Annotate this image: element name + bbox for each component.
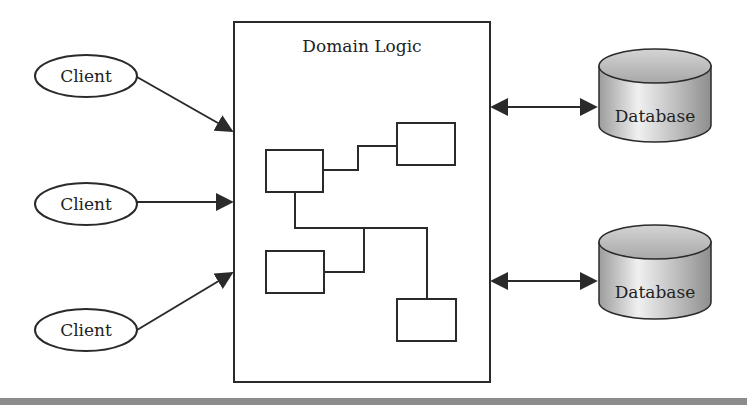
architecture-diagram: Domain Logic Client Client Client <box>0 0 747 409</box>
arrow-icon <box>137 273 232 330</box>
component-box <box>397 123 455 165</box>
database-cylinder: Database <box>599 49 711 142</box>
client-label: Client <box>60 320 112 340</box>
database-label: Database <box>615 282 696 302</box>
component-box <box>266 150 323 192</box>
component-box <box>266 251 324 293</box>
client-node: Client <box>35 309 137 351</box>
domain-logic-title: Domain Logic <box>302 36 421 56</box>
client-arrows <box>137 77 232 330</box>
client-label: Client <box>60 66 112 86</box>
client-node: Client <box>35 55 137 97</box>
database-cylinder: Database <box>599 225 711 319</box>
client-node: Client <box>35 183 137 225</box>
component-box <box>397 299 456 341</box>
footer-bar <box>0 398 747 405</box>
arrow-icon <box>137 77 232 131</box>
client-label: Client <box>60 194 112 214</box>
database-label: Database <box>615 106 696 126</box>
database-arrows <box>492 107 596 281</box>
